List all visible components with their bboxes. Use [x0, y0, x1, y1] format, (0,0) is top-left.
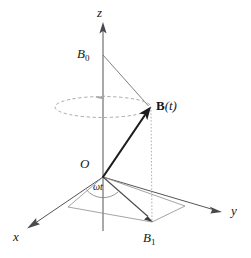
y-axis-arrowhead — [210, 207, 223, 214]
b-one-projection-vector — [103, 177, 153, 222]
b-of-t-label-argument: (t) — [165, 98, 177, 113]
y-axis — [103, 177, 222, 214]
omega-t-label: ωt — [93, 182, 103, 192]
y-axis-line — [103, 177, 213, 210]
x-axis — [27, 177, 103, 229]
b-one-label-base: B — [143, 230, 151, 245]
bt-to-b1-drop-line — [151, 110, 152, 221]
b-of-t-label-symbol: B — [156, 98, 165, 113]
b0-to-bt-line — [103, 55, 149, 106]
b-of-t-vector-arrowhead — [139, 107, 151, 121]
vector-diagram-figure: z y x O B0 B1 B(t) ωt — [0, 0, 251, 258]
y-axis-label: y — [231, 204, 237, 217]
base-top-edge — [103, 177, 185, 206]
base-right-edge — [152, 206, 185, 222]
origin-label: O — [80, 157, 89, 170]
b-one-label-subscript: 1 — [151, 237, 156, 247]
b-of-t-vector-line — [103, 115, 145, 177]
b-of-t-label: B(t) — [156, 99, 177, 112]
z-axis — [99, 22, 106, 231]
b-zero-label-subscript: 0 — [85, 53, 90, 63]
x-axis-arrowhead — [27, 218, 40, 229]
b-zero-label: B0 — [77, 47, 89, 63]
b-zero-label-base: B — [77, 46, 85, 61]
z-axis-label: z — [97, 6, 102, 19]
x-axis-label: x — [13, 230, 19, 243]
diagram-canvas — [0, 0, 251, 258]
b-one-label: B1 — [143, 231, 155, 247]
